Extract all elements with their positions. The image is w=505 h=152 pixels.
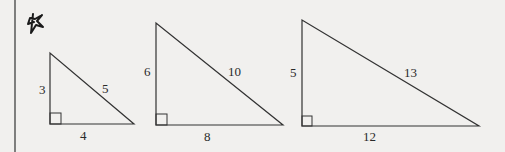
- leg-horizontal-label: 12: [363, 129, 376, 144]
- leg-vertical-label: 5: [290, 65, 297, 80]
- right-angle-marker: [302, 116, 312, 126]
- right-angle-marker: [50, 113, 61, 124]
- hypotenuse-label: 13: [404, 65, 417, 80]
- triangle-6-8-10: 6 10 8: [144, 23, 283, 144]
- leg-horizontal-label: 4: [80, 128, 87, 143]
- triangle-3-4-5: 3 5 4: [39, 53, 134, 143]
- leg-vertical-label: 6: [144, 64, 151, 79]
- triangle-5-12-13: 5 13 12: [290, 20, 479, 144]
- right-angle-marker: [156, 114, 167, 125]
- hypotenuse-label: 5: [102, 81, 109, 96]
- star-icon: [28, 14, 43, 33]
- leg-horizontal-label: 8: [204, 129, 211, 144]
- hypotenuse-label: 10: [228, 64, 241, 79]
- leg-vertical-label: 3: [39, 82, 46, 97]
- triangles-diagram: 3 5 4 6 10 8 5 13 12: [0, 0, 505, 152]
